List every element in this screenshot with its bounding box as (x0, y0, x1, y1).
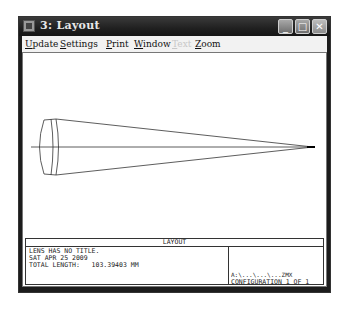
maximize-button[interactable]: □ (295, 19, 310, 34)
menu-window[interactable]: Window (134, 39, 171, 49)
file-info-box: A:\...\...\...ZMX CONFIGURATION 1 OF 1 (228, 247, 323, 284)
file-path: A:\...\...\...ZMX (231, 271, 322, 278)
menu-bar: Update Settings Print Window Text Zoom (22, 36, 327, 52)
menu-zoom[interactable]: Zoom (195, 39, 221, 49)
menu-text: Text (172, 39, 191, 49)
configuration-label: CONFIGURATION 1 OF 1 (231, 278, 309, 286)
layout-canvas[interactable]: LAYOUT LENS HAS NO TITLE.SAT APR 25 2009… (22, 52, 327, 287)
minimize-button[interactable]: _ (278, 19, 293, 34)
menu-print[interactable]: Print (106, 39, 129, 49)
lens-info: LENS HAS NO TITLE.SAT APR 25 2009TOTAL L… (29, 248, 139, 269)
close-button[interactable]: ✕ (312, 19, 327, 34)
layout-window: 3: Layout _ □ ✕ Update Settings Print Wi… (18, 16, 331, 293)
menu-settings[interactable]: Settings (60, 39, 98, 49)
plot-heading: LAYOUT (26, 239, 323, 247)
app-icon[interactable] (23, 20, 35, 32)
info-total-length: TOTAL LENGTH: 103.39403 MM (29, 262, 139, 269)
menu-update[interactable]: Update (25, 39, 58, 49)
title-bar[interactable]: 3: Layout _ □ ✕ (19, 17, 330, 36)
window-title: 3: Layout (40, 19, 100, 32)
plot-label-box: LAYOUT LENS HAS NO TITLE.SAT APR 25 2009… (25, 238, 324, 285)
lens-layout-drawing (23, 53, 328, 239)
